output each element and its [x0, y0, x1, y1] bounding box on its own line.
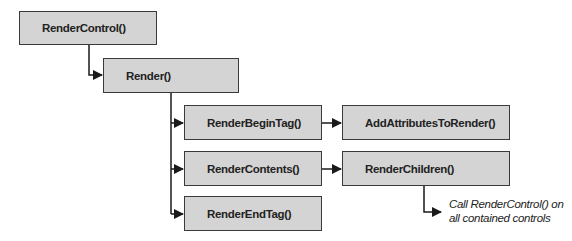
node-label: Render()	[104, 70, 171, 82]
node-label: RenderBeginTag()	[185, 117, 301, 129]
node-render: Render()	[103, 58, 239, 93]
node-render-contents: RenderContents()	[184, 151, 322, 186]
node-label: RenderControl()	[20, 22, 126, 34]
note-line-2: all contained controls	[449, 211, 564, 225]
node-label: RenderChildren()	[343, 163, 454, 175]
node-render-control: RenderControl()	[19, 11, 157, 45]
annotation-note: Call RenderControl() on all contained co…	[449, 197, 564, 225]
node-label: AddAttributesToRender()	[343, 117, 495, 129]
node-render-end-tag: RenderEndTag()	[184, 196, 322, 231]
node-add-attributes-to-render: AddAttributesToRender()	[342, 105, 510, 140]
note-line-1: Call RenderControl() on	[449, 197, 564, 211]
node-label: RenderContents()	[185, 163, 299, 175]
node-render-begin-tag: RenderBeginTag()	[184, 105, 322, 140]
node-label: RenderEndTag()	[185, 208, 291, 220]
node-render-children: RenderChildren()	[342, 151, 510, 186]
render-flow-diagram: RenderControl() Render() RenderBeginTag(…	[0, 0, 572, 241]
